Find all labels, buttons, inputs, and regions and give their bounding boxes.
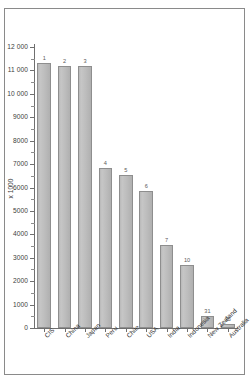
bar: [139, 191, 153, 328]
y-tick-label: 0: [0, 324, 28, 331]
bar: [160, 245, 174, 328]
y-tick-mark: [30, 258, 35, 259]
y-tick-label: 7000: [0, 160, 28, 167]
y-tick-label: 10 000: [0, 90, 28, 97]
bar-rank-label: 4: [95, 160, 115, 166]
plot-area: x 1000 010002000300040005000600070008000…: [0, 0, 250, 385]
bar: [180, 265, 194, 328]
y-tick-mark: [30, 211, 35, 212]
y-tick-label: 12 000: [0, 43, 28, 50]
bar: [78, 66, 92, 328]
bar-rank-label: 6: [136, 183, 156, 189]
y-tick-mark: [30, 164, 35, 165]
y-tick-label: 8000: [0, 137, 28, 144]
y-tick-minor: [31, 129, 35, 130]
bar: [58, 66, 72, 328]
y-tick-label: 2000: [0, 277, 28, 284]
y-tick-label: 3000: [0, 254, 28, 261]
y-tick-label: 4000: [0, 230, 28, 237]
y-tick-mark: [30, 305, 35, 306]
y-tick-mark: [30, 188, 35, 189]
y-tick-label: 5000: [0, 207, 28, 214]
y-tick-minor: [31, 316, 35, 317]
y-tick-minor: [31, 223, 35, 224]
y-tick-mark: [30, 141, 35, 142]
y-tick-minor: [31, 199, 35, 200]
y-tick-mark: [30, 234, 35, 235]
y-tick-minor: [31, 82, 35, 83]
y-tick-label: 6000: [0, 184, 28, 191]
y-axis-line: [34, 44, 35, 329]
y-tick-label: 1000: [0, 301, 28, 308]
y-tick-mark: [30, 117, 35, 118]
bar-rank-label: 7: [157, 237, 177, 243]
bar: [99, 168, 113, 328]
y-tick-minor: [31, 152, 35, 153]
bar-rank-label: 31: [197, 308, 217, 314]
y-tick-minor: [31, 176, 35, 177]
y-tick-mark: [30, 281, 35, 282]
bar-rank-label: 10: [177, 257, 197, 263]
y-tick-minor: [31, 246, 35, 247]
bar-rank-label: 1: [34, 55, 54, 61]
y-tick-label: 11 000: [0, 66, 28, 73]
figure: x 1000 010002000300040005000600070008000…: [0, 0, 250, 385]
y-tick-label: 9000: [0, 113, 28, 120]
y-tick-mark: [30, 94, 35, 95]
bar-rank-label: 3: [75, 58, 95, 64]
bar: [119, 175, 133, 328]
bar: [37, 63, 51, 328]
y-tick-minor: [31, 106, 35, 107]
y-tick-mark: [30, 70, 35, 71]
bar-rank-label: 5: [116, 167, 136, 173]
y-tick-mark: [30, 47, 35, 48]
y-tick-minor: [31, 293, 35, 294]
y-tick-minor: [31, 269, 35, 270]
bar-rank-label: 2: [55, 58, 75, 64]
y-tick-mark: [30, 328, 35, 329]
